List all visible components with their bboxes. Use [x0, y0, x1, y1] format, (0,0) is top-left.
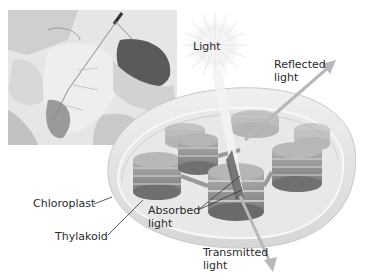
reflected-label-line1: Reflected: [274, 58, 326, 71]
reflected-label-line2: light: [274, 71, 326, 84]
transmitted-label-line1: Transmitted: [203, 246, 268, 259]
absorbed-label-line1: Absorbed: [148, 204, 200, 217]
transmitted-light-label: Transmitted light: [203, 246, 268, 272]
diagram-canvas: Light Reflected light Chloroplast Thylak…: [0, 0, 365, 280]
thylakoid-label: Thylakoid: [55, 230, 108, 243]
light-label: Light: [193, 40, 220, 53]
absorbed-light-label: Absorbed light: [148, 204, 200, 230]
chloroplast-label: Chloroplast: [33, 197, 95, 210]
transmitted-label-line2: light: [203, 259, 268, 272]
reflected-light-label: Reflected light: [274, 58, 326, 84]
absorbed-label-line2: light: [148, 217, 200, 230]
chloroplast-leader-line: [94, 197, 112, 204]
